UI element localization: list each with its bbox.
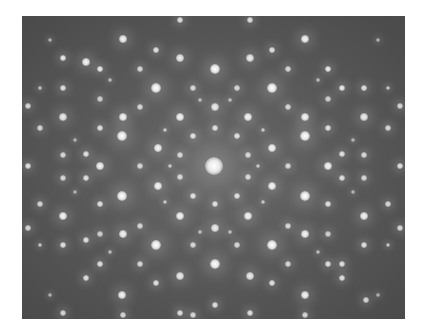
diffraction-spot: [244, 212, 252, 220]
diffraction-spot: [268, 182, 276, 190]
diffraction-spot: [247, 310, 253, 316]
diffraction-spot: [351, 138, 355, 142]
diffraction-spot: [198, 230, 202, 234]
diffraction-spot: [119, 35, 127, 43]
diffraction-spot: [324, 162, 332, 170]
diffraction-spot: [108, 78, 112, 82]
diffraction-spot: [234, 133, 240, 139]
diffraction-spot: [234, 85, 240, 91]
diffraction-spot: [285, 223, 291, 229]
diffraction-spot: [285, 163, 291, 169]
diffraction-spot: [59, 212, 67, 220]
diffraction-pattern-image: [22, 16, 405, 319]
diffraction-spot: [83, 237, 89, 243]
diffraction-spot: [211, 224, 219, 232]
diffraction-spot: [302, 312, 308, 318]
diffraction-spot: [376, 293, 380, 297]
diffraction-spot: [245, 174, 251, 180]
diffraction-spot: [228, 230, 232, 234]
diffraction-spot: [137, 163, 143, 169]
diffraction-spot: [25, 103, 31, 109]
diffraction-spot: [117, 191, 127, 201]
diffraction-spot: [211, 103, 219, 111]
diffraction-spot: [269, 47, 275, 53]
diffraction-spot: [385, 125, 391, 131]
diffraction-spot: [97, 66, 103, 72]
diffraction-spot: [83, 275, 89, 281]
diffraction-spot: [60, 85, 66, 91]
diffraction-spot: [397, 103, 403, 109]
diffraction-spot: [96, 162, 104, 170]
diffraction-spot: [325, 66, 331, 72]
diffraction-spot: [176, 54, 184, 62]
diffraction-spot: [301, 35, 309, 43]
diffraction-spot: [153, 47, 159, 53]
diffraction-spot: [177, 310, 183, 316]
diffraction-spot: [234, 193, 240, 199]
diffraction-spot: [190, 242, 196, 248]
diffraction-spot: [351, 190, 355, 194]
diffraction-spot: [210, 64, 220, 74]
diffraction-spot: [48, 293, 52, 297]
diffraction-spot: [256, 164, 260, 168]
diffraction-spot: [234, 242, 240, 248]
diffraction-spot: [301, 291, 309, 299]
diffraction-spot: [212, 201, 218, 207]
diffraction-spot: [120, 312, 126, 318]
diffraction-spot: [212, 302, 218, 308]
diffraction-spot: [153, 280, 159, 286]
diffraction-spot: [60, 310, 66, 316]
diffraction-spot: [97, 96, 103, 102]
diffraction-spot: [198, 98, 202, 102]
diffraction-spot: [108, 250, 112, 254]
diffraction-spot: [339, 151, 345, 157]
diffraction-spot: [190, 133, 196, 139]
diffraction-spot: [25, 163, 31, 169]
diffraction-spot: [118, 291, 126, 299]
diffraction-spot: [268, 144, 276, 152]
diffraction-spot: [361, 85, 367, 91]
diffraction-spot: [212, 125, 218, 131]
diffraction-spot: [244, 113, 252, 121]
diffraction-spot: [339, 175, 345, 181]
diffraction-spot: [97, 201, 103, 207]
diffraction-spot: [190, 85, 196, 91]
diffraction-spot: [60, 175, 66, 181]
diffraction-spot: [269, 280, 275, 286]
diffraction-spot: [300, 131, 310, 141]
diffraction-spot: [137, 223, 143, 229]
diffraction-spot: [97, 261, 103, 267]
diffraction-spot: [325, 261, 331, 267]
diffraction-spot: [316, 250, 320, 254]
diffraction-spot: [397, 163, 403, 169]
diffraction-spot: [247, 17, 253, 23]
diffraction-spot: [267, 240, 277, 250]
diffraction-spot: [48, 38, 52, 42]
diffraction-spot: [397, 225, 403, 231]
diffraction-spot: [316, 78, 320, 82]
diffraction-spot: [177, 152, 183, 158]
diffraction-spot: [97, 125, 103, 131]
diffraction-spot: [386, 86, 390, 90]
diffraction-spot: [177, 17, 183, 23]
diffraction-spot: [37, 201, 43, 207]
diffraction-spot: [246, 272, 254, 280]
diffraction-spot: [38, 86, 42, 90]
diffraction-spot: [205, 157, 223, 175]
diffraction-spot: [73, 190, 77, 194]
diffraction-spot: [163, 128, 167, 132]
diffraction-spot: [210, 259, 220, 269]
diffraction-spot: [325, 96, 331, 102]
diffraction-spot: [339, 275, 345, 281]
diffraction-spot: [154, 182, 162, 190]
diffraction-spot: [83, 175, 89, 181]
diffraction-spot: [386, 243, 390, 247]
diffraction-spot: [285, 261, 291, 267]
diffraction-spot: [119, 113, 127, 121]
diffraction-spot: [37, 125, 43, 131]
diffraction-spot: [325, 125, 331, 131]
diffraction-spot: [285, 104, 291, 110]
diffraction-spot: [38, 243, 42, 247]
diffraction-spot: [151, 83, 161, 93]
diffraction-spot: [325, 201, 331, 207]
